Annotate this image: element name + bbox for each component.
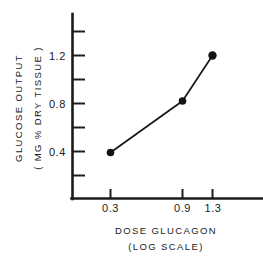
- y-tick-label-0.8: 0.8: [49, 98, 66, 110]
- x-tick-label-0.3: 0.3: [102, 202, 119, 214]
- data-point-marker: [208, 51, 216, 59]
- x-axis-title-line1: DOSE GLUCAGON: [115, 225, 217, 236]
- x-axis-title: DOSE GLUCAGON (LOG SCALE): [115, 225, 217, 252]
- series-line: [111, 56, 213, 153]
- x-axis-title-line2: (LOG SCALE): [128, 241, 204, 252]
- x-tick-labels: 0.3 0.9 1.3: [102, 202, 222, 214]
- chart-figure: 1.2 0.8 0.4 0.3 0.9 1.3 DOSE GLUCAGON (L…: [0, 0, 263, 258]
- y-axis-title: GLUCOSE OUTPUT ( MG % DRY TISSUE ): [13, 46, 43, 170]
- x-tick-label-0.9: 0.9: [174, 202, 191, 214]
- y-axis-title-line1: GLUCOSE OUTPUT: [13, 54, 24, 162]
- line-chart-plot: 1.2 0.8 0.4 0.3 0.9 1.3 DOSE GLUCAGON (L…: [0, 0, 263, 258]
- data-point-marker: [107, 149, 115, 157]
- y-tick-label-0.4: 0.4: [49, 146, 66, 158]
- chart-axes: [72, 14, 263, 199]
- y-axis-title-line2: ( MG % DRY TISSUE ): [32, 46, 43, 170]
- y-axis-ticks: [73, 32, 85, 176]
- y-tick-label-1.2: 1.2: [49, 50, 66, 62]
- y-tick-labels: 1.2 0.8 0.4: [49, 50, 66, 158]
- data-point-marker: [179, 97, 187, 105]
- x-tick-label-1.3: 1.3: [204, 202, 221, 214]
- x-axis-ticks: [111, 189, 213, 198]
- data-series-glucose-output: [107, 51, 217, 156]
